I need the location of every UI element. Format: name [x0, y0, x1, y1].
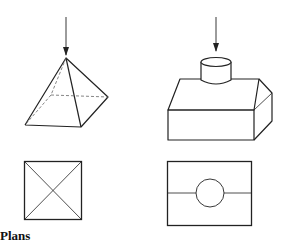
hood-right-face: [254, 79, 272, 140]
arrow-head-icon: [63, 47, 69, 56]
pyramid-figure: [25, 17, 108, 127]
hood-plan: [168, 162, 252, 226]
diagram-canvas: [0, 0, 296, 245]
pyramid-plan: [25, 162, 82, 220]
hood-figure: [168, 17, 272, 140]
cylinder-top: [201, 58, 231, 67]
pyramid-front-edge: [66, 58, 81, 127]
arrow-head-icon: [213, 43, 219, 52]
hood-front-face: [168, 110, 254, 140]
pyramid-visible-edges: [25, 58, 108, 127]
pyramid-hidden-edges: [25, 58, 108, 125]
plans-label: Plans: [0, 229, 30, 243]
